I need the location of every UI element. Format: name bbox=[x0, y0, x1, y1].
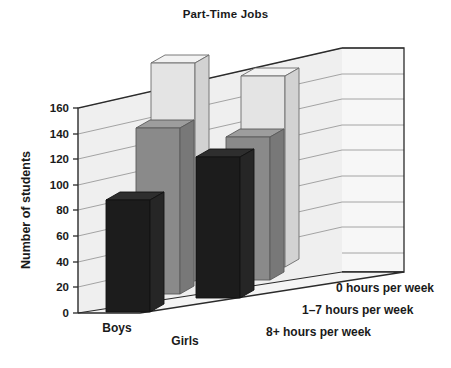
chart-container: Part-Time Jobs bbox=[0, 0, 451, 368]
y-tick-60: 60 bbox=[56, 230, 69, 242]
right-side-wall bbox=[342, 48, 404, 272]
y-axis: 160 140 120 100 80 60 40 20 0 Number of … bbox=[19, 102, 78, 319]
y-tick-100: 100 bbox=[50, 179, 69, 191]
chart-plot-area: 160 140 120 100 80 60 40 20 0 Number of … bbox=[0, 0, 451, 368]
x-axis-labels: Boys Girls bbox=[102, 321, 199, 348]
y-tick-140: 140 bbox=[50, 128, 69, 140]
y-tick-80: 80 bbox=[56, 204, 69, 216]
y-tick-120: 120 bbox=[50, 153, 69, 165]
y-axis-title: Number of students bbox=[19, 151, 33, 269]
bar-boys-8-plus-hours[interactable] bbox=[106, 192, 164, 312]
y-tick-40: 40 bbox=[56, 256, 69, 268]
y-tick-160: 160 bbox=[50, 102, 69, 114]
z-label-0-hours: 0 hours per week bbox=[336, 281, 434, 295]
y-tick-20: 20 bbox=[56, 281, 69, 293]
bar-girls-8-plus-hours[interactable] bbox=[196, 149, 254, 298]
x-label-boys: Boys bbox=[102, 321, 132, 335]
z-label-8-plus-hours: 8+ hours per week bbox=[266, 325, 371, 339]
x-label-girls: Girls bbox=[171, 334, 199, 348]
y-tick-0: 0 bbox=[63, 307, 69, 319]
z-label-1-7-hours: 1–7 hours per week bbox=[302, 303, 414, 317]
